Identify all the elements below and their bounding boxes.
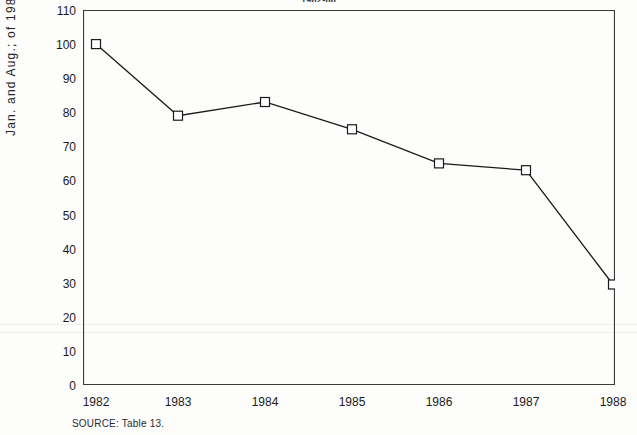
- x-tick-label: 1983: [165, 395, 192, 409]
- x-tick-label: 1984: [252, 395, 279, 409]
- x-tick-label: 1982: [83, 395, 110, 409]
- y-tick-label: 30: [63, 278, 76, 290]
- y-tick-label: 70: [63, 141, 76, 153]
- x-tick-label: 1986: [426, 395, 453, 409]
- y-axis-label: Jan. and Aug.; of 1982=100: [4, 0, 18, 136]
- line-chart-svg: [83, 10, 615, 385]
- chart-title: 1982-88: [0, 0, 637, 2]
- figure-container: 1982-88 Jan. and Aug.; of 1982=100 110 1…: [0, 0, 637, 435]
- y-tick-label: 10: [63, 346, 76, 358]
- data-markers: [92, 40, 616, 289]
- y-tick-label: 50: [63, 210, 76, 222]
- y-tick-label: 80: [63, 107, 76, 119]
- data-point-1988: [609, 280, 616, 289]
- x-axis-tick-labels: 1982 1983 1984 1985 1986 1987 1988: [0, 395, 637, 413]
- source-note: SOURCE: Table 13.: [72, 418, 164, 429]
- y-tick-label: 100: [56, 39, 76, 51]
- y-tick-label: 110: [57, 5, 76, 17]
- y-tick-label: 0: [69, 380, 76, 392]
- x-tick-label: 1988: [600, 395, 627, 409]
- data-point-1986: [435, 159, 444, 168]
- data-point-1984: [261, 98, 270, 107]
- data-point-1985: [348, 125, 357, 134]
- y-tick-label: 90: [63, 73, 76, 85]
- y-tick-label: 40: [63, 244, 76, 256]
- x-tick-label: 1985: [339, 395, 366, 409]
- y-tick-label: 60: [63, 175, 76, 187]
- data-point-1982: [92, 40, 101, 49]
- data-point-1987: [522, 166, 531, 175]
- y-axis-tick-labels: 110 100 90 80 70 60 50 40 30 20 10 0: [34, 0, 76, 435]
- data-point-1983: [174, 111, 183, 120]
- plot-area: [83, 10, 615, 385]
- x-tick-label: 1987: [513, 395, 540, 409]
- data-line-series-index: [96, 44, 613, 284]
- y-tick-label: 20: [63, 312, 76, 324]
